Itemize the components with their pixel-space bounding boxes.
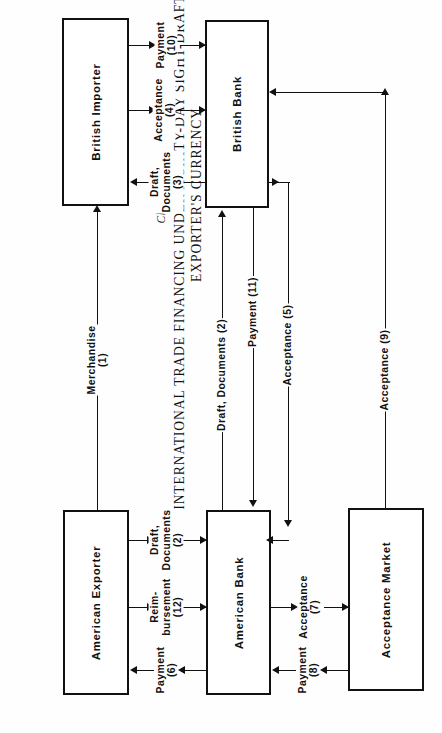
edge-label-merchandise-1-line1: Merchandise — [86, 325, 97, 394]
edge-label-draft-docs-2-vert: Draft, Documents (2) — [216, 318, 228, 432]
edge-payment-8-arrowhead-b — [320, 666, 327, 674]
node-label-british-importer: British Importer — [90, 63, 102, 160]
edge-label-payment-8-line2: (8) — [308, 647, 319, 694]
edge-label-payment-11: Payment (11) — [247, 276, 259, 348]
edge-acceptance-4-arrowhead-b — [199, 106, 206, 114]
edge-label-acceptance-7-line2: (7) — [309, 575, 320, 638]
edge-acceptance-5-tail-arrowhead — [266, 536, 273, 544]
edge-label-payment-10-line1: Payment — [155, 22, 166, 69]
edge-payment-10-seg-a — [129, 45, 151, 46]
edge-label-acceptance-7: Acceptance (7) — [298, 574, 321, 639]
edge-label-draft-docs-3-line1: Draft, — [149, 151, 161, 212]
edge-payment-10-arrowhead-b — [199, 41, 206, 49]
node-american-exporter[interactable]: American Exporter — [63, 510, 129, 695]
edge-reimbursement-12-arrowhead-b — [200, 603, 207, 611]
edge-label-reimbursement-12: Reim- bursement (12) — [149, 577, 184, 637]
edge-payment-8-arrowhead-a — [272, 666, 279, 674]
edge-label-payment-6-line2: (6) — [166, 647, 177, 694]
edge-label-acceptance-4-line2: (4) — [164, 78, 175, 141]
edge-reimbursement-12-seg-a — [129, 607, 149, 608]
edge-label-reimbursement-12-line2: bursement — [160, 578, 172, 636]
edge-label-acceptance-7-line1: Acceptance — [298, 575, 309, 638]
node-american-bank[interactable]: American Bank — [206, 510, 271, 695]
edge-label-draft-docs-2: Draft, Documents (2) — [149, 508, 184, 571]
edge-label-draft-docs-2-line1: Draft, — [149, 509, 161, 570]
edge-label-acceptance-5-line1: Acceptance (5) — [282, 305, 294, 386]
node-british-bank[interactable]: British Bank — [205, 20, 269, 208]
edge-acceptance-5-tail — [271, 540, 289, 541]
title-line-2: EXPORTER'S CURRENCY — [188, 0, 205, 545]
edge-label-payment-6: Payment (6) — [155, 646, 178, 695]
page-title: INTERNATIONAL TRADE FINANCING UNDER A SI… — [171, 0, 206, 545]
edge-payment-8-seg-a — [278, 670, 296, 671]
edge-label-payment-6-line1: Payment — [155, 647, 166, 694]
edge-label-draft-docs-3-line3: (3) — [172, 151, 184, 212]
edge-draft-docs-3-arrowhead-a — [130, 178, 137, 186]
edge-payment-8-seg-b — [326, 670, 348, 671]
edge-payment-11-line — [253, 208, 254, 503]
edge-payment-6-arrowhead-b — [178, 666, 185, 674]
edge-draft-docs-2-arrowhead-b — [200, 536, 207, 544]
edge-acceptance-9-elbow — [275, 92, 386, 93]
edge-payment-6-seg-a — [136, 670, 154, 671]
edge-label-merchandise-1: Merchandise (1) — [86, 324, 109, 395]
edge-payment-6-arrowhead-a — [130, 666, 137, 674]
edge-acceptance-5-arrowhead — [284, 520, 292, 527]
edge-draft-docs-3-seg-b — [182, 182, 205, 183]
edge-label-acceptance-4: Acceptance (4) — [153, 77, 176, 142]
edge-draft-docs-2-vert-arrowhead — [218, 210, 226, 217]
edge-label-acceptance-4-line1: Acceptance — [153, 78, 164, 141]
edge-draft-docs-2-seg-a — [129, 540, 149, 541]
edge-label-payment-8: Payment (8) — [297, 646, 320, 695]
edge-merchandise-1-arrowhead — [93, 205, 101, 212]
edge-acceptance-9-elbow-arrowhead — [269, 88, 276, 96]
edge-payment-11-arrowhead — [249, 500, 257, 507]
edge-acceptance-4-seg-a — [129, 110, 151, 111]
edge-label-draft-docs-3: Draft, Documents (3) — [149, 150, 184, 213]
edge-label-acceptance-9: Acceptance (9) — [379, 329, 391, 412]
edge-payment-6-seg-b — [184, 670, 206, 671]
edge-label-draft-docs-2-vert-line1: Draft, Documents (2) — [216, 319, 228, 431]
edge-label-payment-10-line2: (10) — [166, 22, 177, 69]
edge-label-draft-docs-2-line2: Documents — [160, 509, 172, 570]
node-label-acceptance-market: Acceptance Market — [380, 541, 392, 658]
edge-label-payment-11-line1: Payment (11) — [247, 277, 259, 347]
edge-acceptance-5-elbow-arrowhead — [272, 178, 279, 186]
edge-acceptance-7-arrowhead-b — [342, 603, 349, 611]
node-british-importer[interactable]: British Importer — [62, 18, 129, 206]
edge-label-payment-10: Payment (10) — [155, 21, 178, 70]
node-label-american-exporter: American Exporter — [90, 545, 102, 660]
edge-acceptance-7-seg-a — [271, 607, 293, 608]
edge-label-reimbursement-12-line3: (12) — [172, 578, 184, 636]
edge-label-merchandise-1-line2: (1) — [97, 325, 108, 394]
edge-label-draft-docs-3-line2: Documents — [160, 151, 172, 212]
edge-label-acceptance-5: Acceptance (5) — [282, 304, 294, 387]
node-acceptance-market[interactable]: Acceptance Market — [348, 508, 424, 691]
edge-label-acceptance-9-line1: Acceptance (9) — [379, 330, 391, 411]
edge-acceptance-9-line — [385, 92, 386, 508]
chart-canvas: Chart 28-1 INTERNATIONAL TRADE FINANCING… — [0, 0, 442, 733]
edge-label-reimbursement-12-line1: Reim- — [149, 578, 161, 636]
edge-label-draft-docs-2-line3: (2) — [172, 509, 184, 570]
edge-label-payment-8-line1: Payment — [297, 647, 308, 694]
node-label-american-bank: American Bank — [233, 556, 245, 649]
node-label-british-bank: British Bank — [231, 76, 243, 152]
